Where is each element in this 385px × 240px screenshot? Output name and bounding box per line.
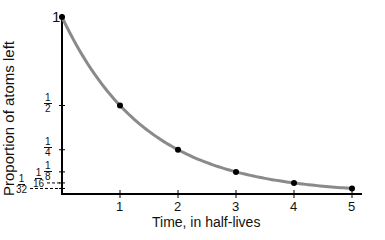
y-tick-label: 1 — [52, 8, 60, 25]
y-tick-label: 14 — [44, 137, 52, 158]
y-tick-label: 116 — [33, 168, 44, 189]
x-tick-label: 1 — [116, 199, 123, 214]
decay-curve — [62, 17, 352, 188]
y-tick-label: 132 — [16, 174, 27, 195]
x-tick-label: 5 — [348, 199, 355, 214]
x-tick-label: 2 — [174, 199, 181, 214]
x-axis-label: Time, in half-lives — [152, 214, 260, 230]
y-tick-label: 12 — [44, 93, 52, 114]
y-axis-label: Proportion of atoms left — [0, 41, 17, 196]
decay-chart — [0, 0, 385, 240]
data-point — [175, 147, 181, 153]
x-tick-label: 4 — [290, 199, 297, 214]
data-point — [233, 169, 239, 175]
data-points — [59, 14, 355, 191]
data-point — [349, 185, 355, 191]
data-point — [291, 180, 297, 186]
axes — [61, 14, 362, 195]
y-tick-label: 18 — [44, 161, 52, 182]
x-tick-label: 3 — [232, 199, 239, 214]
data-point — [117, 103, 123, 109]
